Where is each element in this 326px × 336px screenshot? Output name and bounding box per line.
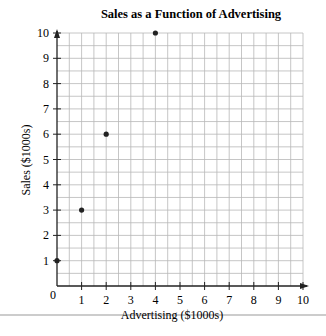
x-tick-label: 4 <box>152 293 158 307</box>
x-tick-label: 7 <box>226 293 232 307</box>
x-axis-label: Advertising ($1000s) <box>121 308 223 322</box>
x-tick-label: 1 <box>79 293 85 307</box>
x-tick-label: 0 <box>50 288 56 302</box>
y-tick-label: 1 <box>43 254 49 268</box>
data-point <box>54 258 59 263</box>
y-tick-labels: 12345678910 <box>37 26 49 268</box>
y-tick-label: 2 <box>43 228 49 242</box>
x-tick-label: 2 <box>103 293 109 307</box>
data-point <box>104 132 109 137</box>
x-tick-label: 5 <box>177 293 183 307</box>
x-tick-label: 6 <box>202 293 208 307</box>
scatter-chart: Sales as a Function of Advertising 01234… <box>0 0 326 336</box>
chart-title: Sales as a Function of Advertising <box>101 7 282 21</box>
x-axis-arrow-icon <box>300 283 309 289</box>
x-tick-labels: 012345678910 <box>50 288 309 307</box>
grid <box>57 33 303 286</box>
y-tick-label: 6 <box>43 127 49 141</box>
x-tick-label: 8 <box>251 293 257 307</box>
data-point <box>153 30 158 35</box>
y-tick-label: 7 <box>43 102 49 116</box>
y-tick-label: 3 <box>43 203 49 217</box>
x-tick-label: 10 <box>297 293 309 307</box>
y-tick-label: 4 <box>43 178 49 192</box>
y-tick-label: 10 <box>37 26 49 40</box>
y-tick-label: 9 <box>43 51 49 65</box>
data-point <box>79 208 84 213</box>
y-axis-label: Sales ($1000s) <box>19 125 33 196</box>
x-tick-label: 9 <box>275 293 281 307</box>
x-tick-label: 3 <box>128 293 134 307</box>
y-tick-label: 8 <box>43 77 49 91</box>
y-tick-label: 5 <box>43 153 49 167</box>
